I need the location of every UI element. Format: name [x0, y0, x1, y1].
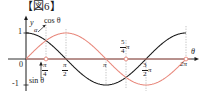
guide-lines [46, 22, 186, 91]
x-tick-label-3-2-pi: 3 2 π [142, 62, 152, 78]
x-tick-label-2-pi: 2π [180, 61, 187, 68]
x-tick-label-pi: π [103, 62, 107, 69]
x-tick-3-2-pi-suffix: π [148, 67, 152, 74]
x-tick-label-pi-2: π 2 [62, 62, 68, 78]
sin-curve-label: sin θ [29, 77, 44, 85]
x-tick-pi-2-den: 2 [62, 71, 68, 78]
x-axis-arrow [195, 57, 200, 61]
cos-curve-label: cos θ [44, 17, 61, 25]
alpha-cos-arrowhead [42, 25, 46, 28]
marker-5-4-pi [124, 57, 128, 61]
x-axis-label: θ [191, 48, 195, 56]
origin-label: 0 [19, 61, 23, 69]
x-tick-pi-4-num: π [42, 62, 48, 69]
x-tick-pi-2-num: π [62, 62, 68, 69]
alpha-cos-label: α [34, 27, 37, 34]
trig-graph-figure [0, 0, 210, 101]
alpha-cos-leader [38, 26, 45, 32]
x-tick-5-4-pi-suffix: π [126, 44, 130, 51]
x-tick-label-5-4-pi: 5 4 π [120, 39, 130, 55]
x-tick-pi-4-den: 4 [42, 71, 48, 78]
y-tick-label-1: 1 [18, 28, 22, 36]
y-tick-label-neg1: -1 [12, 80, 19, 88]
y-axis-arrow [24, 16, 28, 21]
figure-title: 【図6】 [22, 1, 61, 12]
x-tick-label-pi-4: π 4 [42, 62, 48, 78]
